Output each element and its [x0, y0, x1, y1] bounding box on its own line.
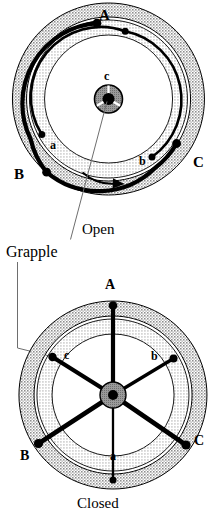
panel-open — [12, 3, 204, 195]
open-label-B: B — [14, 167, 24, 182]
open-arm-endpoint-a — [38, 131, 45, 138]
closed-label-b: b — [151, 350, 158, 362]
open-label-b: b — [139, 155, 146, 167]
closed-label-A: A — [105, 278, 115, 292]
open-label-C: C — [193, 155, 204, 170]
open-label-A: A — [99, 8, 110, 23]
open-hub — [95, 85, 123, 113]
closed-spoke-endpoint-A — [109, 301, 118, 310]
open-label-a: a — [50, 139, 56, 151]
closed-label-C: C — [194, 434, 204, 448]
closed-spoke-endpoint-a — [110, 477, 117, 484]
closed-spoke-endpoint-B — [34, 439, 43, 448]
closed-label-B: B — [20, 449, 29, 463]
open-caption: Open — [82, 222, 115, 237]
closed-spoke-endpoint-C — [181, 440, 190, 449]
open-arm-endpoint-B — [42, 168, 51, 177]
closed-hub — [100, 382, 126, 408]
open-arm-endpoint-C — [172, 139, 181, 148]
grapple-diagram — [0, 0, 219, 521]
closed-spoke-endpoint-c — [48, 353, 56, 361]
open-arm-endpoint-b — [149, 154, 156, 161]
closed-label-a: a — [110, 450, 116, 462]
open-arm-endpoint-c — [122, 28, 129, 35]
open-label-c: c — [104, 70, 109, 82]
grapple-callout-label: Grapple — [6, 244, 58, 260]
closed-label-c: c — [64, 349, 69, 361]
closed-caption: Closed — [77, 496, 119, 511]
closed-spoke-endpoint-b — [170, 355, 178, 363]
